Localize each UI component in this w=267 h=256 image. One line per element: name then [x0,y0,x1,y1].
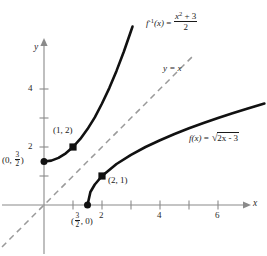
y-axis-label: y [34,43,38,53]
curve-f-inverse [44,27,133,162]
fraction-denominator: 2 [174,22,197,32]
forward-function-formula-label: f(x) = √2x - 3 [189,132,239,143]
formula-equals: = [166,18,171,28]
fraction-three-halves: 32 [15,151,21,168]
formula-equals: = [204,133,209,143]
marker-point-three-halves-0 [84,202,91,209]
formula-argument: (x) [192,133,202,143]
y-tick-label-2: 2 [28,142,33,151]
point-label-suffix: ) [21,155,24,165]
curve-f [88,104,265,205]
inverse-function-formula-label: f-1(x) = x2 + 32 [146,11,198,32]
x-tick-label-2: 2 [99,211,104,220]
marker-point-2-1 [98,172,105,179]
formula-argument: (x) [154,18,164,28]
x-tick-label-4: 4 [157,211,162,220]
plot-canvas [0,0,267,256]
identity-line-label: y = x [163,64,182,73]
x-axis-label: x [253,199,257,209]
marker-point-0-three-halves [41,158,48,165]
point-label-0-three-halves: (0, 32) [2,151,24,168]
inverse-function-graph-figure: y x 4 2 2 4 6 (1, 2) (0, 32) (2, 1) (32,… [0,0,267,256]
fraction-x-squared-plus-three-over-two: x2 + 32 [174,11,197,32]
radicand: 2x - 3 [217,132,240,143]
square-root-expression: √2x - 3 [211,132,239,143]
point-label-suffix: , 0) [81,216,93,226]
point-label-prefix: (0, [2,155,14,165]
x-axis-arrowhead [243,201,251,208]
fraction-three-halves: 32 [75,212,81,229]
axis-arrowheads [40,38,251,209]
x-tick-label-6: 6 [215,211,220,220]
y-axis-arrowhead [40,38,47,46]
point-label-three-halves-0: (32, 0) [71,212,93,229]
point-label-1-2: (1, 2) [53,126,73,135]
fraction-numerator: x2 + 3 [174,11,197,22]
point-label-2-1: (2, 1) [108,176,128,185]
marker-point-1-2 [69,143,76,150]
y-tick-label-4: 4 [28,84,33,93]
axes-group [2,46,243,254]
